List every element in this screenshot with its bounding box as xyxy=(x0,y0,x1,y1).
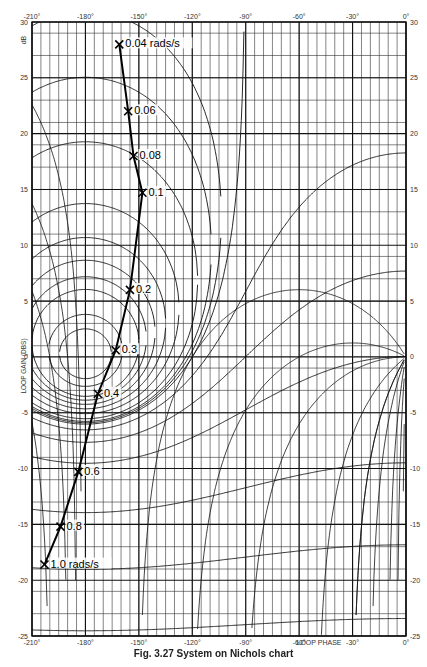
bottom-tick-label: 0° xyxy=(403,639,410,646)
frequency-label: 0.4 xyxy=(104,387,119,399)
top-tick-label: 0° xyxy=(403,13,410,20)
right-tick-label: -10 xyxy=(410,465,420,472)
frequency-label: 0.3 xyxy=(122,343,137,355)
right-tick-label: 30 xyxy=(410,19,418,26)
frequency-label: 0.6 xyxy=(84,465,99,477)
bottom-tick-label: -180° xyxy=(77,639,94,646)
right-tick-label: 15 xyxy=(410,186,418,193)
frequency-marker: 1.0 rads/s xyxy=(40,558,111,570)
bottom-tick-label: -150° xyxy=(130,639,147,646)
frequency-marker: 0.04 rads/s xyxy=(115,37,192,49)
left-tick-label: -15 xyxy=(18,521,28,528)
left-tick-label: 5 xyxy=(24,298,28,305)
left-tick-label: 20 xyxy=(20,130,28,137)
top-tick-label: -60° xyxy=(293,13,306,20)
frequency-label: 0.2 xyxy=(136,283,151,295)
top-tick-label: -30° xyxy=(346,13,359,20)
bottom-tick-label: -120° xyxy=(184,639,201,646)
left-tick-label: 25 xyxy=(20,74,28,81)
bottom-phase-axis: -210°-180°-150°-120°-90°-60°-30°0° xyxy=(24,639,410,646)
right-tick-label: 0 xyxy=(410,353,414,360)
left-gain-axis: 302520151050-5-10-15-20-25 xyxy=(18,19,28,640)
bottom-tick-label: -210° xyxy=(24,639,41,646)
right-tick-label: -20 xyxy=(410,577,420,584)
frequency-label: 0.08 xyxy=(140,149,161,161)
nichols-chart: -210°-180°-150°-120°-90°-60°-30°0° -210°… xyxy=(0,0,427,667)
right-tick-label: 10 xyxy=(410,242,418,249)
left-tick-label: 10 xyxy=(20,242,28,249)
right-tick-label: 5 xyxy=(410,298,414,305)
x-axis-label: LOOP PHASE xyxy=(296,639,341,646)
frequency-marker: 0.8 xyxy=(56,520,84,532)
left-tick-label: -5 xyxy=(22,409,28,416)
right-gain-axis: 302520151050-5-10-15-20-25 xyxy=(410,19,420,640)
db-unit-label: dB xyxy=(20,35,27,44)
left-tick-label: -10 xyxy=(18,465,28,472)
right-tick-label: -25 xyxy=(410,633,420,640)
right-tick-label: -15 xyxy=(410,521,420,528)
top-tick-label: -150° xyxy=(130,13,147,20)
frequency-label: 0.1 xyxy=(148,186,163,198)
frequency-label: 0.8 xyxy=(66,520,81,532)
right-tick-label: -5 xyxy=(410,409,416,416)
left-tick-label: 30 xyxy=(20,19,28,26)
bottom-tick-label: -90° xyxy=(239,639,252,646)
top-tick-label: -180° xyxy=(77,13,94,20)
frequency-marker: 0.6 xyxy=(74,465,102,477)
top-tick-label: -90° xyxy=(239,13,252,20)
left-tick-label: 15 xyxy=(20,186,28,193)
top-tick-label: -120° xyxy=(184,13,201,20)
y-axis-label: LOOP GAIN (DBS) xyxy=(20,338,28,393)
frequency-label: 1.0 rads/s xyxy=(50,558,99,570)
frequency-marker: 0.3 xyxy=(112,343,140,355)
frequency-label: 0.04 rads/s xyxy=(125,37,180,49)
right-tick-label: 20 xyxy=(410,130,418,137)
left-tick-label: -25 xyxy=(18,633,28,640)
left-tick-label: -20 xyxy=(18,577,28,584)
top-phase-axis: -210°-180°-150°-120°-90°-60°-30°0° xyxy=(24,13,410,20)
figure-caption: Fig. 3.27 System on Nichols chart xyxy=(0,648,427,659)
frequency-label: 0.06 xyxy=(134,104,155,116)
bottom-tick-label: -30° xyxy=(346,639,359,646)
right-tick-label: 25 xyxy=(410,74,418,81)
